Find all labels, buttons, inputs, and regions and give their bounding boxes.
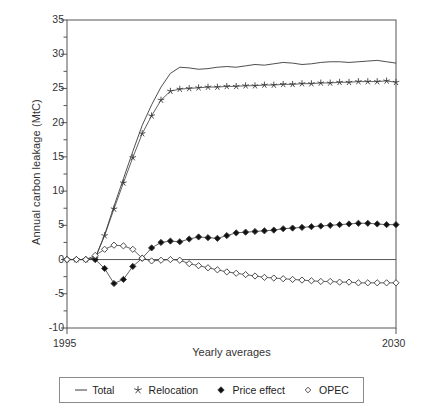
x-tick-label: 1995 <box>53 337 76 349</box>
legend-label: OPEC <box>319 384 349 396</box>
y-tick-label: -5 <box>34 287 64 299</box>
x-tick-label: 2030 <box>382 337 405 349</box>
chart-legend: TotalRelocationPrice effectOPEC <box>59 377 364 403</box>
filled-diamond-icon <box>214 384 228 396</box>
legend-item-price-effect[interactable]: Price effect <box>214 384 284 396</box>
y-tick-label: 20 <box>34 116 64 128</box>
line-icon <box>74 384 88 396</box>
y-tick-label: 35 <box>34 13 64 25</box>
legend-label: Total <box>92 384 114 396</box>
y-tick-label: 0 <box>34 253 64 265</box>
y-tick-label: 25 <box>34 81 64 93</box>
y-tick-label: 30 <box>34 47 64 59</box>
series-total <box>67 60 396 259</box>
legend-label: Price effect <box>232 384 284 396</box>
chart-figure: Annual carbon leakage (MtC) Yearly avera… <box>0 0 422 413</box>
y-tick-label: 5 <box>34 218 64 230</box>
legend-item-relocation[interactable]: Relocation <box>131 384 199 396</box>
open-diamond-icon <box>301 384 315 396</box>
y-axis-tick-labels: 35302520151050-5-10 <box>30 0 64 413</box>
x-axis-label: Yearly averages <box>67 346 396 358</box>
series-opec <box>64 242 399 286</box>
y-tick-label: 15 <box>34 150 64 162</box>
series-price-effect <box>64 220 399 286</box>
star-icon <box>131 384 145 396</box>
y-tick-label: -10 <box>34 321 64 333</box>
legend-item-total[interactable]: Total <box>74 384 114 396</box>
y-tick-label: 10 <box>34 184 64 196</box>
legend-item-opec[interactable]: OPEC <box>301 384 349 396</box>
legend-label: Relocation <box>149 384 199 396</box>
